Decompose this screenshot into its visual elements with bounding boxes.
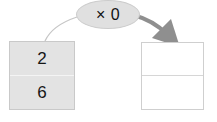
output-cell-2[interactable] [142, 76, 203, 109]
input-column-table: 2 6 [9, 41, 75, 110]
operation-bubble: × 0 [76, 0, 140, 29]
input-cell-1-value: 2 [37, 50, 46, 67]
diagram-canvas: 2 6 × 0 [0, 0, 217, 122]
output-cell-1[interactable] [142, 43, 203, 76]
output-column-table [141, 42, 204, 110]
input-connector-curve [45, 17, 77, 41]
input-cell-2-value: 6 [37, 84, 46, 101]
operation-label: × 0 [96, 7, 120, 23]
input-cell-2: 6 [10, 76, 74, 110]
input-cell-1: 2 [10, 42, 74, 76]
